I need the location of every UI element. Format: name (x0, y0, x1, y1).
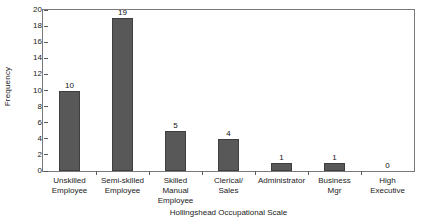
x-axis-category-label-line: Administrator (256, 176, 307, 186)
y-axis-title-text: Frequency (4, 66, 13, 106)
bar-value-label: 10 (43, 81, 96, 90)
x-axis-category-label-line: Business (309, 176, 360, 186)
x-axis-category-label: SkilledManualEmployee (149, 176, 202, 208)
x-axis-category-label-line: High (362, 176, 413, 186)
bar-slot: 4 (202, 10, 255, 171)
x-axis-category-label: UnskilledEmployee (43, 176, 96, 208)
bars-layer: 101954110 (43, 10, 414, 171)
bar-slot: 1 (308, 10, 361, 171)
bar-slot: 1 (255, 10, 308, 171)
x-axis-category-label-line: Employee (44, 186, 95, 196)
bar (112, 18, 134, 171)
bar-slot: 0 (361, 10, 414, 171)
bar-value-label: 1 (308, 153, 361, 162)
x-axis-category-label-line: Sales (203, 186, 254, 196)
x-axis-category-label: Administrator (255, 176, 308, 208)
x-axis-category-label-line: Manual (150, 186, 201, 196)
bar (59, 91, 81, 172)
bar-value-label: 5 (149, 121, 202, 130)
y-axis-title: Frequency (0, 0, 16, 172)
bar-value-label: 19 (96, 8, 149, 17)
x-axis-ticks (43, 171, 414, 175)
bar-slot: 10 (43, 10, 96, 171)
x-axis-category-label-line: Semi-skilled (97, 176, 148, 186)
x-axis-category-label-line: Unskilled (44, 176, 95, 186)
x-axis-category-label-line: Mgr (309, 186, 360, 196)
bar-value-label: 4 (202, 129, 255, 138)
bar (218, 139, 240, 171)
x-axis-tick-mark (308, 171, 309, 175)
bar-slot: 5 (149, 10, 202, 171)
x-axis-title: Hollingshead Occupational Scale (43, 208, 414, 217)
x-axis-category-label-line: Clerical/ (203, 176, 254, 186)
bar (324, 163, 346, 171)
x-axis-category-label: Clerical/Sales (202, 176, 255, 208)
bar-slot: 19 (96, 10, 149, 171)
x-axis-tick-mark (361, 171, 362, 175)
bar (271, 163, 293, 171)
x-axis-category-label: Semi-skilledEmployee (96, 176, 149, 208)
x-axis-tick-mark (255, 171, 256, 175)
x-axis-category-labels: UnskilledEmployeeSemi-skilledEmployeeSki… (43, 176, 414, 208)
bar (165, 131, 187, 171)
x-axis-category-label: HighExecutive (361, 176, 414, 208)
x-axis-category-label: BusinessMgr (308, 176, 361, 208)
bar-value-label: 1 (255, 153, 308, 162)
bar-value-label: 0 (361, 161, 414, 170)
x-axis-category-label-line: Employee (97, 186, 148, 196)
x-axis-category-label-line: Skilled (150, 176, 201, 186)
x-axis-tick-mark (96, 171, 97, 175)
bar-chart-figure: Frequency 02468101214161820 101954110 Un… (0, 0, 428, 224)
x-axis-category-label-line: Employee (150, 196, 201, 206)
x-axis-tick-mark (149, 171, 150, 175)
x-axis-category-label-line: Executive (362, 186, 413, 196)
x-axis-tick-mark (202, 171, 203, 175)
